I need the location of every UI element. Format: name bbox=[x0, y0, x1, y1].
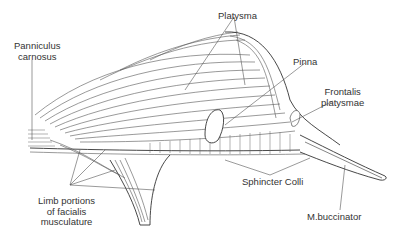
label-sphincter-colli: Sphincter Colli bbox=[242, 177, 303, 188]
label-line: Pinna bbox=[293, 57, 317, 68]
label-frontalis-platysmae: Frontalis platysmae bbox=[321, 87, 364, 108]
label-line: Panniculus bbox=[14, 41, 60, 52]
label-line: musculature bbox=[38, 217, 95, 228]
label-line: M.buccinator bbox=[307, 212, 361, 223]
label-line: Platysma bbox=[218, 11, 257, 22]
label-line: carnosus bbox=[14, 52, 60, 63]
label-platysma: Platysma bbox=[218, 11, 257, 22]
label-line: Limb portions bbox=[38, 196, 95, 207]
diagram-canvas: Panniculus carnosus Platysma Pinna Front… bbox=[0, 0, 407, 241]
label-line: Frontalis bbox=[321, 87, 364, 98]
label-limb-portions: Limb portions of facialis musculature bbox=[38, 196, 95, 228]
label-panniculus-carnosus: Panniculus carnosus bbox=[14, 41, 60, 62]
label-m-buccinator: M.buccinator bbox=[307, 212, 361, 223]
label-pinna: Pinna bbox=[293, 57, 317, 68]
label-line: platysmae bbox=[321, 98, 364, 109]
label-line: Sphincter Colli bbox=[242, 177, 303, 188]
